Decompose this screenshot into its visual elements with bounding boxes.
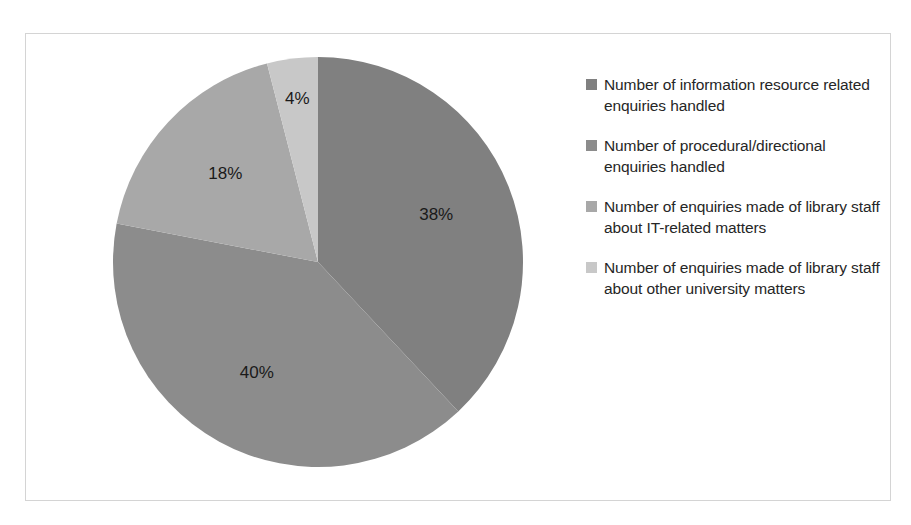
legend-item[interactable]: Number of enquiries made of library staf…	[586, 196, 886, 238]
pie-chart: 38%40%18%4%	[108, 52, 528, 472]
chart-frame: 38%40%18%4% Number of information resour…	[25, 33, 891, 501]
pie-data-label: 40%	[240, 363, 274, 382]
legend-item-label: Number of information resource related e…	[604, 74, 886, 116]
legend-color-swatch	[586, 140, 597, 151]
legend-item[interactable]: Number of information resource related e…	[586, 74, 886, 116]
pie-chart-svg: 38%40%18%4%	[108, 52, 528, 472]
legend-color-swatch	[586, 262, 597, 273]
pie-data-label: 18%	[208, 164, 242, 183]
pie-data-label: 38%	[419, 205, 453, 224]
legend-item-label: Number of enquiries made of library staf…	[604, 196, 886, 238]
legend-color-swatch	[586, 201, 597, 212]
legend-item-label: Number of procedural/directional enquiri…	[604, 135, 886, 177]
chart-plot-area: 38%40%18%4% Number of information resour…	[26, 34, 890, 500]
legend-color-swatch	[586, 79, 597, 90]
pie-data-label: 4%	[285, 89, 310, 108]
chart-legend: Number of information resource related e…	[586, 74, 886, 318]
legend-item[interactable]: Number of procedural/directional enquiri…	[586, 135, 886, 177]
pie-slice-group	[113, 57, 523, 467]
legend-item[interactable]: Number of enquiries made of library staf…	[586, 257, 886, 299]
legend-item-label: Number of enquiries made of library staf…	[604, 257, 886, 299]
